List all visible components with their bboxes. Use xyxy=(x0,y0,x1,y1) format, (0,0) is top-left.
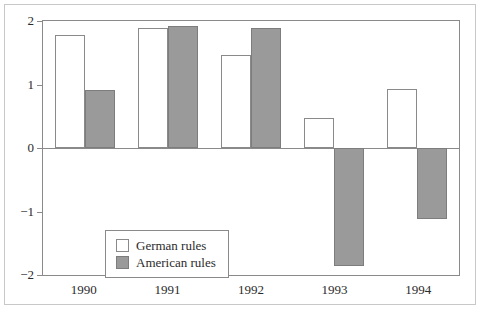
bar-1994-american[interactable] xyxy=(417,148,447,219)
x-axis-label-1991: 1991 xyxy=(126,278,210,302)
bar-1991-american[interactable] xyxy=(168,26,198,148)
bar-1990-american[interactable] xyxy=(85,90,115,148)
bar-group-1994 xyxy=(376,21,459,275)
bar-slot xyxy=(334,21,364,275)
bar-1993-german[interactable] xyxy=(304,118,334,148)
bar-slot xyxy=(304,21,334,275)
x-axis-label-1990: 1990 xyxy=(42,278,126,302)
german-swatch xyxy=(116,239,129,252)
x-axis-label-1992: 1992 xyxy=(209,278,293,302)
bar-1994-german[interactable] xyxy=(387,89,417,148)
legend-label: German rules xyxy=(136,238,206,254)
x-axis-label-1993: 1993 xyxy=(293,278,377,302)
chart-legend: German rulesAmerican rules xyxy=(105,230,229,278)
x-axis-label-1994: 1994 xyxy=(376,278,460,302)
legend-item-german[interactable]: German rules xyxy=(116,237,216,254)
bar-1990-german[interactable] xyxy=(55,35,85,148)
bar-1992-german[interactable] xyxy=(221,55,251,148)
y-tick-label-3: −1 xyxy=(20,204,34,220)
bar-slot xyxy=(251,21,281,275)
bar-1991-german[interactable] xyxy=(138,28,168,148)
y-tick-label-0: 2 xyxy=(28,13,35,29)
plot-area: 2 1 0 −1 −2 German rulesAmerican rules xyxy=(42,20,460,276)
bar-chart: 2 1 0 −1 −2 German rulesAmerican rules 1… xyxy=(0,0,480,309)
y-tick-4 xyxy=(37,275,43,276)
y-tick-label-1: 1 xyxy=(28,77,35,93)
bar-slot xyxy=(417,21,447,275)
bar-slot xyxy=(387,21,417,275)
bar-1992-american[interactable] xyxy=(251,28,281,148)
bar-group-1993 xyxy=(293,21,376,275)
y-tick-label-4: −2 xyxy=(20,267,34,283)
legend-label: American rules xyxy=(136,255,216,271)
legend-item-american[interactable]: American rules xyxy=(116,254,216,271)
bar-1993-american[interactable] xyxy=(334,148,364,266)
y-tick-label-2: 0 xyxy=(28,140,35,156)
american-swatch xyxy=(116,256,129,269)
x-axis-labels: 19901991199219931994 xyxy=(42,278,460,302)
bar-slot xyxy=(55,21,85,275)
